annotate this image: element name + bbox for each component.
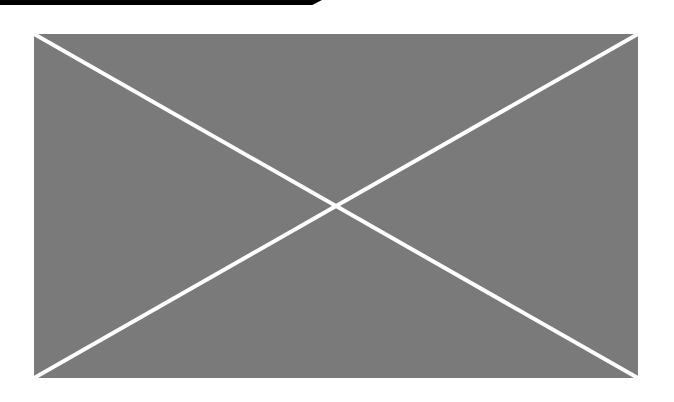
- placeholder-x-icon: [34, 34, 638, 378]
- page-canvas: [0, 0, 674, 402]
- image-placeholder: [34, 34, 638, 378]
- top-black-bar: [0, 0, 322, 5]
